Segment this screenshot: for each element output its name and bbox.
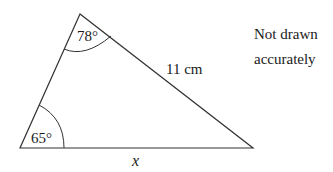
bottom-left-angle-label: 65°	[31, 130, 52, 146]
base-label: x	[131, 152, 139, 169]
note-line-1: Not drawn	[254, 22, 333, 47]
triangle	[20, 14, 253, 148]
side-length-label: 11 cm	[166, 61, 203, 77]
note-line-2: accurately	[254, 47, 333, 72]
top-angle-label: 78°	[77, 28, 98, 44]
not-drawn-accurately-note: Not drawn accurately	[254, 22, 333, 72]
